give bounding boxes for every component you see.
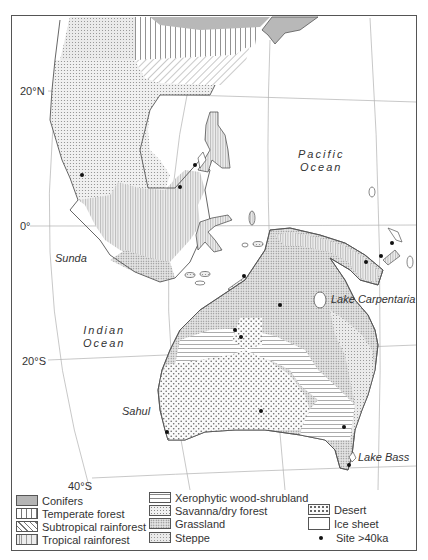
lake-carpentaria [314,292,326,308]
sahul-label: Sahul [122,405,150,417]
legend: Conifers Temperate forest Subtropical ra… [11,490,417,551]
vegetation-map [0,0,428,490]
grassland-swatch-icon [149,518,171,529]
temperate-forest-swatch-icon [16,508,38,519]
legend-item-tropical-rainforest: Tropical rainforest [16,533,130,546]
pacific-ocean-line1: Pacific [298,148,344,161]
indian-ocean-line2: Ocean [83,337,125,350]
lake-carpentaria-label: Lake Carpentaria [331,293,415,305]
legend-label: Site >40ka [336,532,388,544]
legend-item-savanna: Savanna/dry forest [149,504,267,517]
lat-label-20s: 20°S [22,355,46,367]
japan-landmass [262,17,318,44]
indian-ocean-line1: Indian [83,324,125,337]
sunda-label: Sunda [55,252,87,264]
legend-label: Grassland [175,518,225,530]
legend-label: Conifers [42,495,83,507]
legend-label: Savanna/dry forest [175,505,267,517]
legend-item-ice-sheet: Ice sheet [308,517,379,530]
legend-item-steppe: Steppe [149,531,210,544]
xerophytic-swatch-icon [149,492,171,503]
lake-bass-label: Lake Bass [358,451,409,463]
ice-sheet-swatch-icon [308,517,330,530]
desert-swatch-icon [308,504,330,515]
legend-item-temperate-forest: Temperate forest [16,507,125,520]
legend-label: Tropical rainforest [42,534,130,546]
savanna-swatch-icon [149,505,171,516]
tropical-rainforest-swatch-icon [16,534,38,545]
legend-item-site: Site >40ka [308,531,388,544]
indian-ocean-label: Indian Ocean [83,324,125,350]
legend-item-conifers: Conifers [16,494,83,507]
legend-label: Temperate forest [42,508,125,520]
pacific-ocean-line2: Ocean [298,161,344,174]
legend-label: Desert [334,504,366,516]
legend-item-grassland: Grassland [149,517,225,530]
legend-item-xerophytic: Xerophytic wood-shrubland [149,491,308,504]
lat-label-20n: 20°N [20,85,45,97]
legend-label: Subtropical rainforest [42,521,146,533]
legend-label: Ice sheet [334,518,379,530]
legend-item-desert: Desert [308,503,366,516]
lat-label-equator: 0° [20,220,31,232]
subtropical-rainforest-swatch-icon [16,521,38,532]
site-marker-icon [319,536,323,540]
legend-label: Steppe [175,532,210,544]
pacific-ocean-label: Pacific Ocean [298,148,344,174]
legend-item-subtropical-rainforest: Subtropical rainforest [16,520,146,533]
conifers-swatch-icon [16,495,38,506]
legend-label: Xerophytic wood-shrubland [175,492,308,504]
steppe-swatch-icon [149,532,171,543]
